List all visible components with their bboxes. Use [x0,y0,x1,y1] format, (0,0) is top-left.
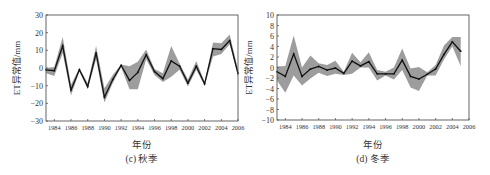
data-point [318,66,320,68]
x-tick-label: 1990 [329,123,342,130]
y-tick-label: 2 [270,53,274,62]
data-point [162,78,164,80]
data-point [204,83,206,85]
x-tick-label: 2000 [182,124,195,131]
data-point [351,60,353,62]
x-axis-title-autumn: 年份 [102,137,182,151]
chart-canvas: −30−20−100102030198419861988199019921994… [0,0,490,175]
y-tick-label: −10 [261,116,274,125]
y-tick-label: 20 [35,29,43,38]
data-point [129,79,131,81]
data-point [229,40,231,42]
y-tick-label: −20 [30,99,43,108]
data-point [335,67,337,69]
uncertainty-band [46,34,238,102]
x-tick-label: 2002 [429,123,442,130]
x-tick-label: 1996 [379,123,392,130]
x-tick-label: 2006 [232,124,245,131]
y-tick-label: −10 [30,82,43,91]
x-tick-label: 1992 [346,123,359,130]
data-point [120,64,122,66]
y-tick-label: 0 [270,64,274,73]
data-point [376,73,378,75]
data-point [326,69,328,71]
data-point [137,72,139,74]
data-point [284,76,286,78]
x-tick-label: 1988 [312,123,325,130]
data-point [195,65,197,67]
y-tick-label: 10 [35,46,43,55]
x-tick-label: 2006 [463,123,476,130]
x-tick-label: 1990 [98,124,111,131]
y-tick-label: 4 [270,43,274,52]
data-point [393,73,395,75]
data-point [443,53,445,55]
data-point [154,71,156,73]
x-tick-label: 2002 [198,124,211,131]
data-point [112,79,114,81]
y-axis-title: ET异常值/mm [243,40,254,95]
y-tick-label: 8 [270,22,274,31]
y-tick-label: 0 [39,64,43,73]
data-point [385,73,387,75]
x-tick-label: 2004 [215,124,228,131]
chart-caption-autumn: (c) 秋季 [82,151,202,165]
data-point [293,53,295,55]
data-point [187,82,189,84]
chart-caption-winter: (d) 冬季 [313,151,433,165]
data-point [418,78,420,80]
data-point [451,41,453,43]
data-point [179,65,181,67]
x-tick-label: 1998 [396,123,409,130]
x-axis-title-winter: 年份 [333,137,413,151]
uncertainty-band [277,36,461,93]
data-point [95,52,97,54]
data-point [460,50,462,52]
data-point [145,54,147,56]
x-tick-label: 1986 [65,124,78,131]
x-tick-label: 2000 [413,123,426,130]
y-axis-title: ET异常值/mm [11,41,22,96]
x-tick-label: 1988 [81,124,94,131]
chart-panel-winter: −10−8−6−4−202468101984198619881990199219… [243,11,475,130]
y-tick-label: 10 [266,11,274,20]
x-tick-label: 1994 [132,124,145,131]
data-point [78,69,80,71]
y-tick-label: −4 [265,85,274,94]
data-point [220,49,222,51]
y-tick-label: −2 [265,74,274,83]
y-tick-label: −30 [30,117,43,126]
data-point [343,72,345,74]
data-point [70,89,72,91]
data-point [410,76,412,78]
x-tick-label: 1986 [296,123,309,130]
data-point [170,60,172,62]
data-point [309,68,311,70]
data-point [360,65,362,67]
y-tick-label: 30 [35,11,43,20]
x-tick-label: 1994 [363,123,376,130]
data-point [368,61,370,63]
x-tick-label: 1998 [165,124,178,131]
x-tick-label: 1996 [148,124,161,131]
data-point [435,68,437,70]
data-point [104,96,106,98]
data-point [53,70,55,72]
data-point [62,45,64,47]
data-point [87,86,89,88]
data-point [401,59,403,61]
y-tick-label: −8 [265,106,274,115]
chart-panel-autumn: −30−20−100102030198419861988199019921994… [11,11,244,131]
x-tick-label: 1984 [279,123,292,130]
x-tick-label: 1984 [48,124,61,131]
data-point [301,76,303,78]
y-tick-label: −6 [265,95,274,104]
data-point [212,48,214,50]
y-tick-label: 6 [270,32,274,41]
x-tick-label: 2004 [446,123,459,130]
data-point [426,73,428,75]
x-tick-label: 1992 [115,124,128,131]
